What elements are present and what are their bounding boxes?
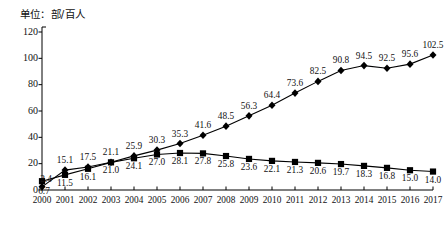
data-point-label: 22.1: [260, 164, 284, 174]
data-point-marker: [338, 67, 345, 75]
data-point-label: 28.1: [168, 156, 192, 166]
x-axis-tick-label: 2017: [420, 195, 446, 205]
data-point-label: 25.9: [122, 141, 146, 151]
data-point-label: 48.5: [214, 111, 238, 121]
data-point-label: 35.3: [168, 129, 192, 139]
y-axis-tick-label: 120: [6, 26, 38, 37]
data-point-marker: [384, 64, 391, 72]
data-point-label: 15.1: [53, 155, 77, 165]
data-point-label: 41.6: [191, 120, 215, 130]
data-point-label: 23.6: [237, 162, 261, 172]
data-point-label: 73.6: [283, 78, 307, 88]
y-axis-tick-label: 40: [6, 131, 38, 142]
data-point-label: 19.7: [329, 167, 353, 177]
data-point-label: 95.6: [398, 49, 422, 59]
data-point-marker: [269, 101, 276, 109]
data-point-label: 17.5: [76, 152, 100, 162]
data-point-label: 25.8: [214, 159, 238, 169]
data-point-label: 16.8: [375, 171, 399, 181]
data-point-marker: [430, 51, 437, 59]
data-point-label: 15.0: [398, 173, 422, 183]
data-point-label: 11.5: [53, 178, 77, 188]
data-point-label: 30.3: [145, 135, 169, 145]
data-point-label: 94.5: [352, 51, 376, 61]
data-point-label: 56.3: [237, 101, 261, 111]
data-point-label: 90.8: [329, 55, 353, 65]
data-point-label: 64.4: [260, 90, 284, 100]
data-point-label: 14.0: [421, 175, 445, 185]
data-point-marker: [407, 60, 414, 68]
data-point-label: 24.1: [122, 161, 146, 171]
data-point-marker: [223, 122, 230, 130]
data-point-marker: [315, 78, 322, 86]
data-point-label: 18.3: [352, 169, 376, 179]
data-point-label: 21.1: [99, 147, 123, 157]
data-point-marker: [177, 140, 184, 148]
y-axis-tick-label: 100: [6, 52, 38, 63]
y-axis-tick-label: 60: [6, 105, 38, 116]
data-point-label: 102.5: [421, 40, 445, 50]
data-point-label: 21.3: [283, 165, 307, 175]
data-point-marker: [246, 112, 253, 120]
y-axis-tick-label: 80: [6, 78, 38, 89]
data-point-marker: [292, 89, 299, 97]
data-point-label: 27.0: [145, 157, 169, 167]
data-point-label: 20.6: [306, 166, 330, 176]
data-point-label: 21.0: [99, 165, 123, 175]
data-point-marker: [200, 131, 207, 139]
y-axis-tick-label: 20: [6, 157, 38, 168]
data-point-label: 82.5: [306, 66, 330, 76]
data-point-label: 16.1: [76, 172, 100, 182]
data-point-label: 92.5: [375, 53, 399, 63]
data-point-marker: [361, 62, 368, 70]
data-point-label: 27.8: [191, 156, 215, 166]
